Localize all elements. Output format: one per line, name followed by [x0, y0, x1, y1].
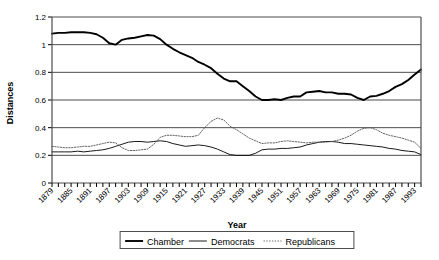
- line-chart: 00.20.40.60.811.2 1879188518911897190319…: [0, 0, 439, 260]
- x-tick-label: 1945: [246, 186, 265, 205]
- chart-container: 00.20.40.60.811.2 1879188518911897190319…: [0, 0, 439, 260]
- x-tick-label: 1927: [189, 186, 208, 205]
- x-tick-label: 1885: [56, 186, 75, 205]
- chart-legend: ChamberDemocratsRepublicans: [120, 232, 354, 249]
- x-tick-label: 1951: [266, 186, 285, 205]
- x-tick-label: 1939: [227, 186, 246, 205]
- x-axis-ticks: 1879188518911897190319091915192119271933…: [36, 183, 421, 205]
- data-series-layer: [52, 32, 421, 155]
- x-tick-label: 1987: [380, 186, 399, 205]
- y-tick-label: 0.4: [35, 124, 47, 133]
- x-tick-label: 1909: [132, 186, 151, 205]
- x-tick-label: 1963: [304, 186, 323, 205]
- x-tick-label: 1993: [399, 186, 418, 205]
- y-axis-ticks: 00.20.40.60.811.2: [35, 13, 52, 188]
- y-tick-label: 0: [42, 179, 47, 188]
- x-axis-title: Year: [227, 220, 247, 230]
- legend-label-chamber: Chamber: [147, 237, 184, 247]
- x-tick-label: 1933: [208, 186, 227, 205]
- y-tick-label: 1: [42, 41, 47, 50]
- x-tick-label: 1975: [342, 186, 361, 205]
- y-tick-label: 1.2: [35, 13, 47, 22]
- x-tick-label: 1969: [323, 186, 342, 205]
- series-line-chamber: [52, 32, 421, 100]
- x-tick-label: 1915: [151, 186, 170, 205]
- y-tick-label: 0.2: [35, 151, 47, 160]
- y-tick-label: 0.8: [35, 68, 47, 77]
- x-tick-label: 1981: [361, 186, 380, 205]
- y-tick-label: 0.6: [35, 96, 47, 105]
- x-tick-label: 1903: [113, 186, 132, 205]
- x-tick-label: 1897: [94, 186, 113, 205]
- y-axis-title: Distances: [5, 82, 15, 125]
- x-tick-label: 1921: [170, 186, 189, 205]
- x-tick-label: 1879: [36, 186, 55, 205]
- x-tick-label: 1957: [285, 186, 304, 205]
- legend-label-republicans: Republicans: [286, 237, 336, 247]
- legend-label-democrats: Democrats: [211, 237, 255, 247]
- x-tick-label: 1891: [75, 186, 94, 205]
